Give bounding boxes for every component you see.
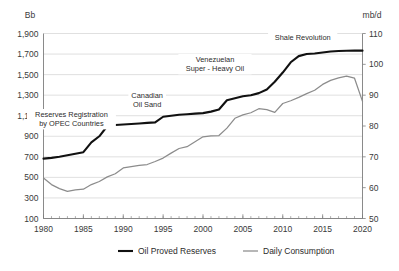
y2-tick-label: 100 (369, 59, 383, 69)
annotation-label: by OPEC Countries (39, 119, 104, 128)
x-tick-label: 2020 (353, 224, 372, 234)
x-axis-tick-labels: 198019851990199520002005201020152020 (34, 224, 372, 234)
y-axis-title: Bb (25, 10, 36, 20)
annotation-label: Super - Heavy Oil (186, 64, 245, 73)
y2-axis-title: mb/d (363, 10, 382, 20)
y2-tick-label: 70 (369, 152, 379, 162)
y-tick-label: 1,500 (17, 70, 39, 80)
y2-tick-label: 110 (369, 29, 383, 39)
x-tick-label: 1985 (74, 224, 93, 234)
y-tick-label: 500 (24, 172, 38, 182)
x-tick-label: 1995 (154, 224, 173, 234)
y2-axis-ticks (363, 34, 366, 219)
chart-container: 1003005007009001,1001,3001,5001,7001,900… (0, 0, 399, 271)
x-tick-label: 1980 (34, 224, 53, 234)
chart-legend: Oil Proved ReservesDaily Consumption (118, 246, 335, 256)
y-tick-label: 700 (24, 152, 38, 162)
legend-label-1: Oil Proved Reserves (138, 246, 216, 256)
annotation-label: Canadian (131, 91, 163, 100)
y-tick-label: 900 (24, 131, 38, 141)
x-tick-label: 2015 (313, 224, 332, 234)
y2-tick-label: 80 (369, 121, 379, 131)
annotation-label: Reserves Registration (35, 110, 108, 119)
x-tick-label: 2000 (194, 224, 213, 234)
series-daily-consumption (44, 76, 363, 191)
y-tick-label: 1,300 (17, 90, 39, 100)
annotation-label: Shale Revolution (275, 33, 331, 42)
y2-tick-label: 90 (369, 90, 379, 100)
x-tick-label: 1990 (114, 224, 133, 234)
y-tick-label: 300 (24, 193, 38, 203)
oil-reserves-consumption-chart: 1003005007009001,1001,3001,5001,7001,900… (0, 0, 399, 271)
annotation-label: Venezuelan (196, 55, 235, 64)
x-tick-label: 2005 (233, 224, 252, 234)
annotation-label: Oil Sand (133, 100, 161, 109)
legend-label-2: Daily Consumption (263, 246, 335, 256)
y2-axis-tick-labels: 5060708090100110 (369, 29, 383, 224)
y2-tick-label: 60 (369, 183, 379, 193)
y-tick-label: 1,900 (17, 29, 39, 39)
y-tick-label: 1,700 (17, 49, 39, 59)
y-tick-label: 100 (24, 214, 38, 224)
x-tick-label: 2010 (273, 224, 292, 234)
y2-tick-label: 50 (369, 214, 379, 224)
